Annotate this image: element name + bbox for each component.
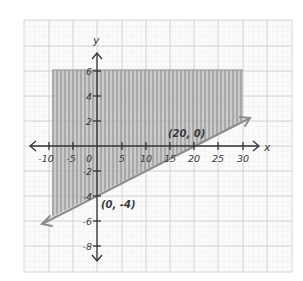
y-tick-label: 4: [86, 91, 92, 102]
x-tick-labels: -10 -5 0 5 10 15 20 25 30: [38, 153, 249, 164]
x-tick-label: 15: [164, 153, 176, 164]
y-tick-label: -4: [83, 191, 92, 202]
x-tick-label: 25: [212, 153, 224, 164]
x-tick-label: -5: [66, 153, 75, 164]
x-tick-label: 30: [237, 153, 249, 164]
y-tick-label: 2: [86, 116, 92, 127]
x-tick-label: 0: [86, 153, 92, 164]
point-label-20-0: (20, 0): [168, 128, 205, 139]
x-tick-label: 5: [119, 153, 125, 164]
y-tick-label: -2: [83, 166, 92, 177]
y-tick-label: -6: [83, 216, 92, 227]
x-tick-label: 10: [140, 153, 152, 164]
x-tick-label: 20: [188, 153, 200, 164]
x-axis-label: x: [263, 141, 271, 154]
y-axis-label: y: [92, 34, 100, 47]
inequality-graph: x y -10 -5 0 5 10 15 20 25 30 6 4 2 -2 -…: [0, 0, 303, 281]
y-tick-label: -8: [83, 241, 92, 252]
point-label-0-neg4: (0, -4): [101, 199, 136, 210]
x-tick-label: -10: [38, 153, 54, 164]
y-tick-label: 6: [86, 66, 92, 77]
